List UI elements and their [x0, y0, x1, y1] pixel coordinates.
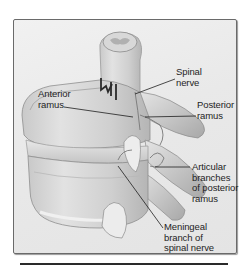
leader-spinal-nerve: [135, 79, 175, 94]
bottom-rule: [20, 263, 228, 265]
label-posterior-ramus: Posterior ramus: [197, 100, 234, 121]
label-meningeal-branch: Meningeal branch of spinal nerve: [164, 222, 214, 254]
label-anterior-ramus: Anterior ramus: [38, 89, 70, 110]
label-spinal-nerve: Spinal nerve: [176, 67, 202, 88]
label-articular-branches: Articular branches of posterior ramus: [192, 162, 238, 204]
